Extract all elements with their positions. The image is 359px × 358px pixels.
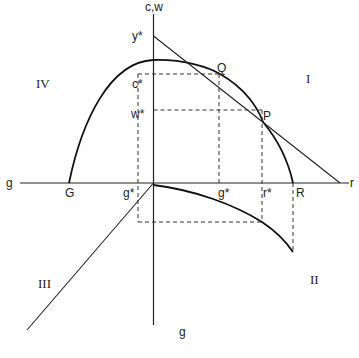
r-star-label: r* [263,186,272,200]
point-g-label: G [65,186,74,200]
quadrant-iv-label: IV [36,76,50,91]
point-q-label: Q [217,61,226,75]
w-star-label: w* [130,107,145,121]
point-p-label: P [263,109,271,123]
horizontal-axis-right-label: r [350,176,354,190]
c-star-label: c* [132,77,143,91]
point-r-label: R [296,186,305,200]
quadrant-i-label: I [306,71,310,86]
y-star-label: y* [132,29,143,43]
g-star-left-label: g* [123,186,135,200]
g-star-right-label: g* [218,186,230,200]
frontier-curve [69,60,293,183]
quadrant-iii-line [27,183,154,330]
vertical-axis-bottom-label: g [179,325,186,339]
diagram-canvas: c,w g g r y* c* w* g* g* r* Q P G R I II… [0,0,359,358]
vertical-axis-top-label: c,w [145,0,163,14]
quadrant-ii-label: II [310,272,319,287]
quadrant-iii-label: III [38,276,51,291]
horizontal-axis-left-label: g [6,176,13,190]
